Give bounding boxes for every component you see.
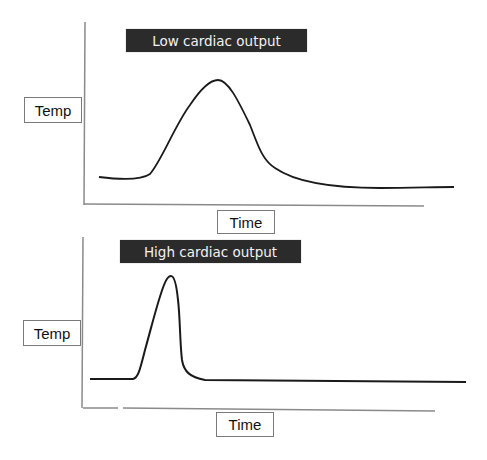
top-x-axis [84,204,424,206]
bottom-panel-title: High cardiac output [120,240,301,263]
top-curve [99,80,454,188]
top-x-axis-label: Time [217,210,275,234]
top-y-axis [84,22,85,205]
top-panel-title: Low cardiac output [126,29,307,52]
bottom-curve [90,276,466,382]
bottom-y-axis [82,237,83,408]
bottom-x-axis-segment-2 [123,408,435,411]
bottom-x-axis-label: Time [216,412,274,437]
top-y-axis-label: Temp [24,97,82,123]
bottom-y-axis-label: Temp [23,320,81,346]
